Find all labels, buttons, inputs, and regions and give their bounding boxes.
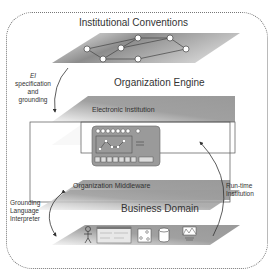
grounding-caption: Grounding Language Interpreter xyxy=(10,199,50,223)
organization-engine-label: Organization Engine xyxy=(114,77,205,88)
business-domain-label: Business Domain xyxy=(121,203,199,214)
ei-spec-caption: EI specification and grounding xyxy=(12,72,54,104)
layer-diagram xyxy=(0,0,275,275)
ei-spec-arrow xyxy=(55,68,68,112)
database-icon xyxy=(159,228,169,242)
organization-middleware-label: Organization Middleware xyxy=(73,182,150,189)
network-icon xyxy=(138,229,151,242)
form-icon xyxy=(97,227,131,243)
runtime-caption: Run-time Institution xyxy=(226,182,254,198)
ei-panel-graphic xyxy=(92,126,160,166)
business-domain-plane xyxy=(52,225,240,245)
electronic-institution-label: Electronic Institution xyxy=(92,106,155,113)
institutional-conventions-label: Institutional Conventions xyxy=(79,17,188,28)
institutional-conventions-plane xyxy=(52,33,240,63)
